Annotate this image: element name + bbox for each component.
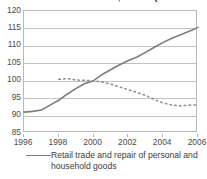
chart-container: Index of volume of sales, EU-25 (2000 = … <box>0 0 207 179</box>
y-axis-tick-label: 90 <box>1 110 21 119</box>
series-layer <box>24 11 198 133</box>
y-axis-tick-label: 105 <box>1 58 21 67</box>
x-axis-tick-label: 2000 <box>78 137 108 147</box>
y-axis-tick-label: 110 <box>1 40 21 49</box>
x-axis-tick-label: 2002 <box>112 137 142 147</box>
legend-entry-label: Retail trade and repair of personal and … <box>51 150 201 171</box>
x-axis-tick-labels: 199619982000200220042006 <box>23 134 197 146</box>
chart-legend: Retail trade and repair of personal and … <box>26 150 204 171</box>
x-axis-tick-label: 2004 <box>147 137 177 147</box>
y-axis-tick-label: 115 <box>1 23 21 32</box>
legend-line-swatch-icon <box>26 151 51 160</box>
x-axis-tick-label: 1998 <box>43 137 73 147</box>
y-axis-tick-label: 120 <box>1 6 21 15</box>
series-line <box>24 27 198 112</box>
plot-area <box>23 10 197 132</box>
y-axis-tick-label: 95 <box>1 93 21 102</box>
y-axis-tick-label: 100 <box>1 75 21 84</box>
y-axis-tick-label: 85 <box>1 128 21 137</box>
chart-title: Index of volume of sales, EU-25 (2000 = … <box>3 0 207 3</box>
series-line <box>59 79 198 106</box>
y-axis-tick-labels: 859095100105110115120 <box>0 10 21 132</box>
x-axis-tick-label: 2006 <box>182 137 207 147</box>
x-axis-tick-label: 1996 <box>8 137 38 147</box>
